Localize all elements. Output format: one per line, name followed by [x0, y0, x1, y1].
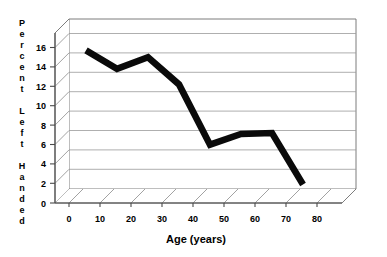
x-axis [55, 203, 342, 207]
y-axis-title-letter: t [21, 84, 24, 94]
y-tick-label: 6 [41, 140, 46, 150]
y-tick-label: 4 [41, 159, 46, 169]
y-tick-label: 10 [36, 101, 46, 111]
x-axis-title: Age (years) [166, 233, 226, 245]
y-axis [50, 33, 55, 203]
x-tick-label: 10 [95, 214, 105, 224]
y-tick-label: 8 [41, 121, 46, 131]
y-tick-label: 0 [41, 199, 46, 209]
y-tick-label: 2 [41, 179, 46, 189]
plot-back-wall [69, 19, 356, 189]
y-axis-title-letter: e [19, 62, 24, 72]
y-tick-label: 16 [36, 43, 46, 53]
y-axis-title-letter: r [20, 40, 24, 50]
y-axis-title-letter: n [19, 183, 25, 193]
y-axis-title-letter: f [21, 128, 25, 138]
y-axis-title-letter: a [19, 172, 25, 182]
y-axis-title-letter: e [19, 117, 24, 127]
x-axis-tick-labels: 0 10 20 30 40 50 60 70 80 [66, 214, 322, 224]
y-axis-tick-labels: 0 2 4 6 8 10 12 14 16 [36, 43, 46, 209]
x-tick-label: 80 [312, 214, 322, 224]
x-tick-label: 30 [157, 214, 167, 224]
y-axis-title-letter: L [19, 106, 25, 116]
y-axis-title-letter: H [19, 161, 26, 171]
y-axis-title-letter: d [19, 194, 25, 204]
y-axis-title-letter: P [19, 18, 25, 28]
y-axis-title-letter: e [19, 29, 24, 39]
y-axis-title: P e r c e n t L e f t H a n d e d [19, 18, 26, 226]
plot-left-wall [55, 19, 69, 203]
y-tick-label: 12 [36, 82, 46, 92]
y-axis-title-letter: n [19, 73, 25, 83]
x-tick-label: 60 [250, 214, 260, 224]
y-axis-title-letter: e [19, 205, 24, 215]
y-tick-label: 14 [36, 62, 46, 72]
x-tick-label: 40 [188, 214, 198, 224]
x-tick-label: 50 [219, 214, 229, 224]
line-chart: 0 2 4 6 8 10 12 14 16 P e r c e n t L e … [0, 0, 387, 257]
y-axis-title-letter: c [19, 51, 24, 61]
x-tick-label: 20 [126, 214, 136, 224]
plot-floor [55, 189, 356, 203]
chart-container: 0 2 4 6 8 10 12 14 16 P e r c e n t L e … [0, 0, 387, 257]
x-tick-label: 0 [66, 214, 71, 224]
y-axis-title-letter: t [21, 139, 24, 149]
x-tick-label: 70 [281, 214, 291, 224]
y-axis-title-letter: d [19, 216, 25, 226]
